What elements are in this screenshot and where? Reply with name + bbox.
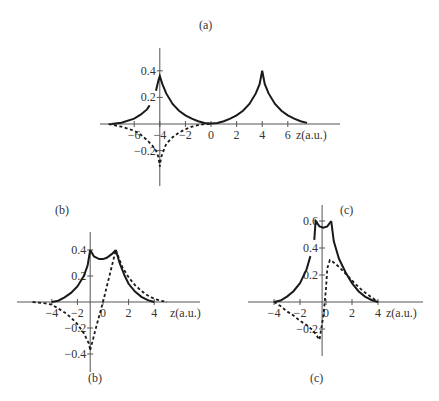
panel-b-caption-label: (b) <box>88 371 102 385</box>
x-axis-label: z(a.u.) <box>170 306 201 320</box>
y-tick-label: 0.4 <box>141 64 156 78</box>
solid-curve <box>90 250 116 259</box>
y-tick-label: 0.4 <box>303 241 318 255</box>
panel-c-caption-label: (c) <box>310 371 323 385</box>
dashed-curve <box>90 250 116 350</box>
x-tick-label: −4 <box>45 306 58 320</box>
x-axis-label: z(a.u.) <box>386 306 417 320</box>
x-tick-label: −2 <box>71 306 84 320</box>
solid-curve <box>331 221 378 302</box>
panel-a-title: (a) <box>199 18 212 32</box>
figure-canvas: −6−4−202460.40.2−0.2z(a.u.) −4−20240.40.… <box>0 0 439 401</box>
solid-curve <box>111 105 149 124</box>
x-tick-label: −4 <box>268 306 281 320</box>
panel-c-title: (c) <box>340 203 353 217</box>
x-tick-label: 0 <box>323 306 329 320</box>
y-tick-label: −0.4 <box>64 347 86 361</box>
x-tick-label: 4 <box>259 128 265 142</box>
x-tick-label: 0 <box>208 128 214 142</box>
panel-c-plot: −4−20240.60.40.2−0.2z(a.u.) <box>248 205 423 356</box>
x-tick-label: 4 <box>375 306 381 320</box>
x-tick-label: −2 <box>179 128 192 142</box>
x-axis-label: z(a.u.) <box>296 128 327 142</box>
dashed-curve <box>116 250 167 302</box>
y-tick-label: 0.4 <box>71 243 86 257</box>
x-tick-label: 2 <box>126 306 132 320</box>
x-tick-label: −2 <box>294 306 307 320</box>
x-tick-label: 2 <box>349 306 355 320</box>
caption-fragment <box>0 392 439 401</box>
x-tick-label: −4 <box>153 128 166 142</box>
panel-b-plot: −4−20240.40.2−0.2−0.4z(a.u.) <box>17 232 201 372</box>
x-tick-label: 6 <box>285 128 291 142</box>
solid-curve <box>116 250 154 302</box>
solid-curve <box>156 71 307 124</box>
solid-curve <box>314 221 331 240</box>
x-tick-label: 4 <box>151 306 157 320</box>
y-tick-label: 0.2 <box>141 90 156 104</box>
panel-a-plot: −6−4−202460.40.2−0.2z(a.u.) <box>100 48 340 186</box>
x-tick-label: 2 <box>234 128 240 142</box>
panel-b-title: (b) <box>55 203 69 217</box>
